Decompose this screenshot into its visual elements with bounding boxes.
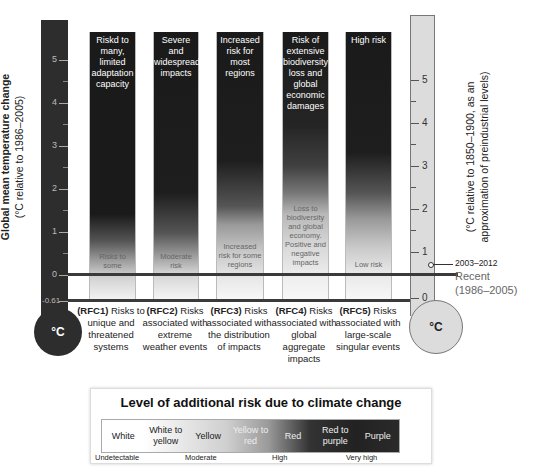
rfc3-bar: Increased risk for most regions Increase… bbox=[216, 32, 264, 300]
legend-entry-white: White bbox=[102, 420, 144, 452]
rfc4-bar: Risk of extensive biodiversity loss and … bbox=[282, 32, 329, 300]
right-tick-1 bbox=[411, 252, 419, 253]
rfc1-bar: Riskd to many, limited adaptation capaci… bbox=[89, 32, 136, 300]
right-minor-tick bbox=[411, 144, 416, 145]
left-tick-label: -0.61 bbox=[42, 296, 60, 305]
left-axis-title: Global mean temperature change (°C relat… bbox=[0, 22, 32, 292]
legend-entry-purple: Purple bbox=[357, 420, 399, 452]
left-axis-title-line1: Global mean temperature change bbox=[0, 22, 12, 292]
rfc5-high-text: High risk bbox=[346, 32, 391, 46]
rfc1-low-text: Risks to some bbox=[90, 252, 135, 270]
rfc4-caption: (RFC4) Risks associated with global aggr… bbox=[269, 305, 339, 365]
left-tick-neg061 bbox=[59, 301, 68, 302]
right-tick-label: 4 bbox=[422, 117, 428, 128]
rfc5-caption: (RFC5) Risks associated with large-scale… bbox=[333, 305, 403, 353]
legend-entry-white-to-yellow: White to yellow bbox=[144, 420, 186, 452]
right-axis-title-line1: (°C relative to 1850–1900, as an bbox=[463, 22, 477, 292]
left-tick-label: 2 bbox=[52, 183, 57, 193]
period-2003-2012-label: 2003–2012 bbox=[455, 258, 498, 268]
right-tick-0 bbox=[411, 298, 419, 299]
rfc3-low-text: Increased risk for some regions bbox=[217, 242, 263, 269]
risk-legend: Level of additional risk due to climate … bbox=[90, 388, 432, 464]
right-tick-label: 2 bbox=[422, 203, 428, 214]
right-axis-title: (°C relative to 1850–1900, as an approxi… bbox=[463, 22, 497, 292]
right-bulb-label: °C bbox=[429, 320, 442, 334]
rfc2-id: (RFC2) bbox=[146, 305, 177, 316]
legend-scale-undetectable: Undetectable bbox=[95, 453, 139, 462]
recent-label: Recent bbox=[455, 270, 490, 282]
rfc5-bar: High risk Low risk bbox=[345, 32, 392, 300]
right-tick-label: 3 bbox=[422, 160, 428, 171]
recent-period-label: (1986–2005) bbox=[455, 284, 517, 296]
right-tick-5 bbox=[411, 80, 419, 81]
left-tick-label: 1 bbox=[52, 226, 57, 236]
left-minor-tick bbox=[63, 253, 68, 254]
right-tick-4 bbox=[411, 123, 419, 124]
recent-baseline-line bbox=[68, 273, 458, 276]
left-tick-label: 3 bbox=[52, 140, 57, 150]
rfc1-caption: (RFC1) Risks to unique and threatened sy… bbox=[76, 305, 146, 353]
right-tick-label: 5 bbox=[422, 74, 428, 85]
left-thermometer-bulb: °C bbox=[34, 308, 82, 356]
rfc2-bar: Severe and widespread impacts Moderate r… bbox=[153, 32, 199, 300]
left-tick-1 bbox=[59, 232, 68, 233]
left-tick-5 bbox=[59, 60, 68, 61]
rfc2-caption: (RFC2) Risks associated with extreme wea… bbox=[140, 305, 210, 353]
left-tick-0 bbox=[59, 275, 68, 276]
rfc3-id: (RFC3) bbox=[210, 305, 241, 316]
rfc1-id: (RFC1) bbox=[77, 305, 108, 316]
left-bulb-label: °C bbox=[51, 325, 64, 339]
rfc5-id: (RFC5) bbox=[339, 305, 370, 316]
left-minor-tick bbox=[63, 167, 68, 168]
legend-entry-red-to-purple: Red to purple bbox=[314, 420, 356, 452]
legend-title: Level of additional risk due to climate … bbox=[91, 395, 431, 410]
legend-scale-moderate: Moderate bbox=[185, 453, 217, 462]
right-minor-tick bbox=[411, 230, 416, 231]
legend-scale-high: High bbox=[272, 453, 287, 462]
rfc2-high-text: Severe and widespread impacts bbox=[154, 32, 198, 79]
left-tick-4 bbox=[59, 103, 68, 104]
right-axis-title-line2: approximation of preindustrial levels) bbox=[477, 22, 491, 292]
left-axis-title-line2: (°C relative to 1986–2005) bbox=[12, 22, 26, 292]
left-minor-tick bbox=[63, 124, 68, 125]
right-thermometer-bulb: °C bbox=[409, 300, 463, 354]
rfc3-caption: (RFC3) Risks associated with the distrib… bbox=[204, 305, 274, 353]
right-tick-3 bbox=[411, 166, 419, 167]
left-minor-tick bbox=[63, 81, 68, 82]
left-tick-3 bbox=[59, 146, 68, 147]
right-minor-tick bbox=[411, 101, 416, 102]
period-leader-line bbox=[433, 264, 453, 265]
left-tick-label: 4 bbox=[52, 97, 57, 107]
right-tick-label: 1 bbox=[422, 246, 428, 257]
left-minor-tick bbox=[63, 210, 68, 211]
legend-entry-yellow: Yellow bbox=[187, 420, 229, 452]
period-marker-dot bbox=[428, 262, 434, 268]
left-tick-label: 5 bbox=[52, 54, 57, 64]
legend-color-scale: White White to yellow Yellow Yellow to r… bbox=[101, 419, 400, 453]
left-tick-label: 0 bbox=[52, 269, 57, 279]
legend-scale-very-high: Very high bbox=[346, 453, 377, 462]
rfc1-high-text: Riskd to many, limited adaptation capaci… bbox=[90, 32, 135, 90]
right-minor-tick bbox=[411, 187, 416, 188]
left-tick-2 bbox=[59, 189, 68, 190]
right-tick-label: 0 bbox=[422, 292, 428, 303]
rfc4-id: (RFC4) bbox=[275, 305, 306, 316]
preindustrial-baseline-line bbox=[68, 299, 410, 302]
legend-entry-yellow-to-red: Yellow to red bbox=[229, 420, 271, 452]
right-tick-2 bbox=[411, 209, 419, 210]
rfc5-low-text: Low risk bbox=[346, 260, 391, 269]
rfc4-high-text: Risk of extensive biodiversity loss and … bbox=[283, 32, 328, 112]
rfc2-low-text: Moderate risk bbox=[154, 252, 198, 270]
rfc3-high-text: Increased risk for most regions bbox=[217, 32, 263, 79]
legend-entry-red: Red bbox=[272, 420, 314, 452]
rfc4-low-text: Loss to biodiversity and global economy.… bbox=[283, 204, 328, 267]
